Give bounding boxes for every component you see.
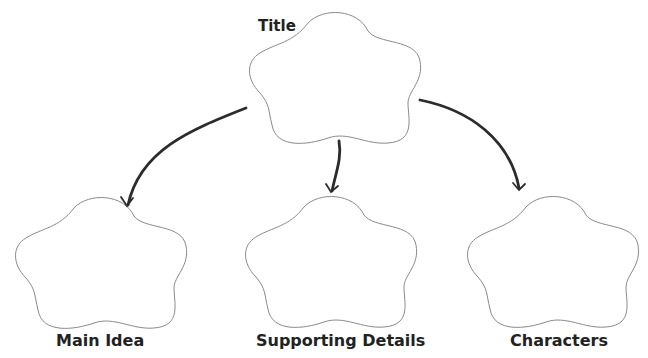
arrow-to-supporting-details: [326, 141, 340, 192]
flower-main-idea-shape: [16, 198, 187, 329]
supporting-details-label: Supporting Details: [256, 331, 425, 350]
organizer-canvas: [0, 0, 648, 358]
main-idea-label: Main Idea: [56, 331, 144, 350]
title-label: Title: [258, 17, 296, 35]
flower-supporting-details-shape: [246, 197, 417, 328]
flower-characters-shape: [468, 197, 639, 328]
arrow-to-main-idea: [121, 108, 246, 206]
arrow-to-characters: [420, 100, 525, 190]
characters-label: Characters: [510, 331, 608, 350]
